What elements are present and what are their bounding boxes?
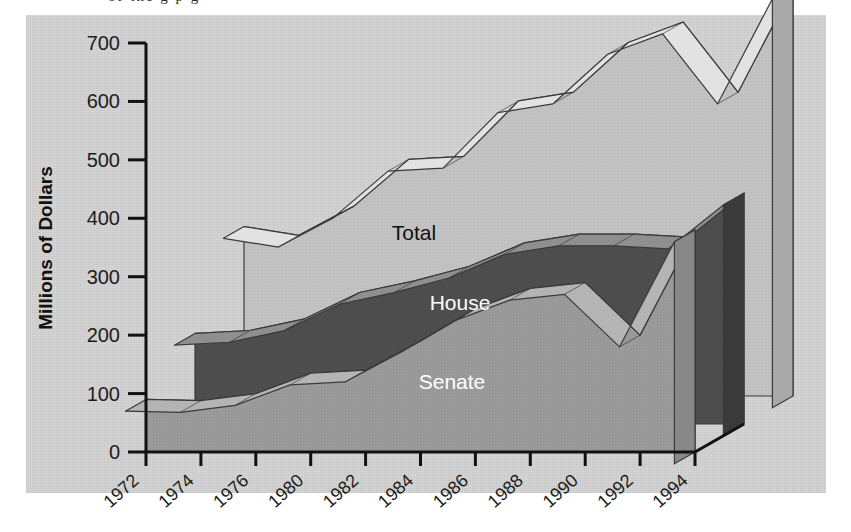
series-label-senate: Senate	[419, 370, 486, 393]
y-axis-title: Millions of Dollars	[35, 166, 56, 330]
series-label-house: House	[430, 291, 491, 314]
y-tick-group	[128, 43, 146, 452]
x-tick-label: 1994	[649, 470, 692, 512]
x-tick-label: 1982	[319, 470, 362, 512]
x-tick-label: 1990	[539, 470, 582, 512]
x-tick-label: 1974	[154, 470, 197, 512]
y-tick-label: 100	[87, 383, 120, 405]
area-chart: 0100200300400500600700 19721974197619801…	[0, 0, 851, 532]
chart-svg-wrapper: 0100200300400500600700 19721974197619801…	[0, 0, 851, 532]
y-tick-label-group: 0100200300400500600700	[87, 32, 120, 463]
y-tick-label: 700	[87, 32, 120, 54]
x-tick-label-group: 1972197419761980198219841986198819901992…	[100, 470, 692, 512]
series-label-total: Total	[392, 221, 436, 244]
y-tick-label: 0	[109, 441, 120, 463]
y-tick-label: 500	[87, 149, 120, 171]
x-tick-label: 1972	[100, 470, 143, 512]
x-tick-label: 1992	[594, 470, 637, 512]
y-tick-label: 200	[87, 324, 120, 346]
y-tick-label: 400	[87, 207, 120, 229]
total-end-cap	[772, 0, 793, 408]
y-tick-label: 600	[87, 90, 120, 112]
house-end-cap	[723, 193, 744, 436]
x-axis-line-depth	[695, 424, 744, 452]
x-tick-label: 1988	[484, 470, 527, 512]
senate-end-cap	[674, 230, 695, 464]
x-tick-group	[146, 452, 695, 466]
chart-surfaces	[125, 0, 793, 464]
figure-container: of the g p g 0100200300400500600700	[0, 0, 851, 532]
x-tick-label: 1976	[209, 470, 252, 512]
x-tick-label: 1980	[264, 470, 307, 512]
y-tick-label: 300	[87, 266, 120, 288]
x-tick-label: 1986	[429, 470, 472, 512]
x-tick-label: 1984	[374, 470, 417, 512]
